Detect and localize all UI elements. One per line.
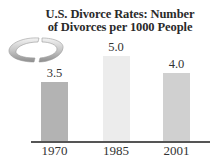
value-label-1985: 5.0	[96, 40, 136, 55]
bar-1970	[41, 82, 68, 142]
bar-2001	[163, 73, 190, 141]
x-tick-1970: 1970	[35, 143, 75, 159]
value-label-2001: 4.0	[157, 57, 197, 72]
bar-1985	[103, 56, 130, 141]
value-label-1970: 3.5	[35, 66, 75, 81]
bar-chart: 3.5 5.0 4.0 1970 1985 2001	[0, 0, 213, 164]
x-tick-1985: 1985	[96, 143, 136, 159]
x-tick-2001: 2001	[157, 143, 197, 159]
